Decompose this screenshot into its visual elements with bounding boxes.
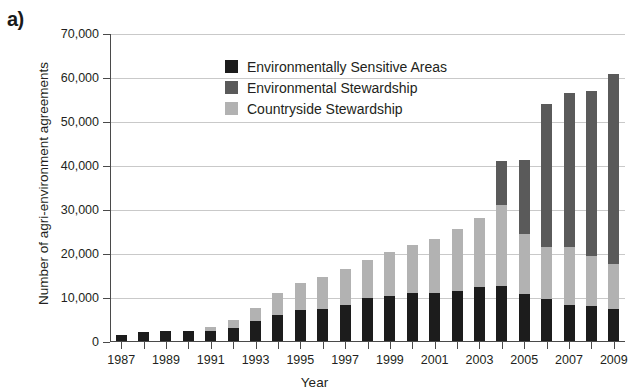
bar-segment <box>384 252 395 296</box>
bar-segment <box>564 305 575 342</box>
bar-segment <box>272 293 283 315</box>
legend-label: Environmentally Sensitive Areas <box>247 59 447 75</box>
bar <box>519 160 530 342</box>
x-axis-tick <box>121 342 122 349</box>
x-axis-tick <box>435 342 436 349</box>
legend-item: Environmental Stewardship <box>225 77 447 98</box>
bar-segment <box>541 247 552 300</box>
x-axis-tick-label: 1995 <box>286 353 314 367</box>
gridline <box>110 34 625 35</box>
bar-segment <box>340 305 351 342</box>
bar-segment <box>317 309 328 342</box>
bar-segment <box>541 104 552 246</box>
bar <box>205 327 216 342</box>
x-axis-tick-label: 1987 <box>107 353 135 367</box>
x-axis-tick <box>614 342 615 349</box>
x-axis-tick-label: 2007 <box>555 353 583 367</box>
x-axis-tick <box>457 342 458 349</box>
bar-segment <box>586 256 597 307</box>
legend-swatch-icon <box>225 60 238 73</box>
bar <box>295 283 306 342</box>
x-axis-tick-label: 2009 <box>600 353 628 367</box>
bar <box>564 93 575 342</box>
bar-segment <box>272 315 283 342</box>
x-axis-tick <box>390 342 391 349</box>
bar-segment <box>250 321 261 342</box>
bar-segment <box>586 91 597 256</box>
bar-segment <box>429 239 440 293</box>
x-axis-tick <box>300 342 301 349</box>
bar <box>272 293 283 342</box>
x-axis-tick-label: 2001 <box>421 353 449 367</box>
bar-segment <box>429 293 440 342</box>
bar-segment <box>407 245 418 293</box>
y-axis-tick-label: 60,000 <box>61 71 99 85</box>
x-axis-tick <box>144 342 145 349</box>
y-axis-tick <box>103 298 110 299</box>
bar-segment <box>250 308 261 322</box>
x-axis-line <box>110 341 625 342</box>
bar <box>384 252 395 342</box>
y-axis-tick-label: 40,000 <box>61 159 99 173</box>
bar-segment <box>228 328 239 342</box>
y-axis-tick-label: 10,000 <box>61 291 99 305</box>
bar-segment <box>496 286 507 342</box>
bar-segment <box>407 293 418 342</box>
x-axis-tick-label: 1997 <box>331 353 359 367</box>
y-axis-tick <box>103 122 110 123</box>
legend-item: Countryside Stewardship <box>225 98 447 119</box>
chart-legend: Environmentally Sensitive AreasEnvironme… <box>225 56 447 119</box>
x-axis-tick <box>547 342 548 349</box>
bar-segment <box>452 291 463 342</box>
bar-segment <box>362 298 373 342</box>
bar <box>496 161 507 342</box>
bar-segment <box>496 205 507 286</box>
y-axis-tick <box>103 166 110 167</box>
y-axis-tick <box>103 78 110 79</box>
x-axis-tick <box>211 342 212 349</box>
x-axis-tick-label: 1989 <box>152 353 180 367</box>
bar <box>608 74 619 342</box>
x-axis-tick <box>345 342 346 349</box>
x-axis-tick-label: 2003 <box>466 353 494 367</box>
y-axis-tick-label: 20,000 <box>61 247 99 261</box>
legend-swatch-icon <box>225 102 238 115</box>
x-axis-tick <box>368 342 369 349</box>
y-axis-tick <box>103 34 110 35</box>
y-axis-tick-label: 0 <box>92 335 99 349</box>
bar-segment <box>474 218 485 287</box>
bar-segment <box>474 287 485 342</box>
x-axis-tick <box>188 342 189 349</box>
x-axis-tick-label: 1991 <box>197 353 225 367</box>
bar-segment <box>608 309 619 342</box>
bar <box>541 104 552 342</box>
bar <box>317 277 328 342</box>
bar-segment <box>340 269 351 305</box>
bar <box>228 320 239 342</box>
bar-segment <box>496 161 507 205</box>
bar-segment <box>541 299 552 342</box>
x-axis-tick-label: 1993 <box>242 353 270 367</box>
bar-segment <box>452 229 463 290</box>
bar-segment <box>384 296 395 342</box>
bar-segment <box>564 93 575 246</box>
legend-label: Countryside Stewardship <box>247 101 403 117</box>
y-axis-tick-label: 70,000 <box>61 27 99 41</box>
y-axis-tick-label: 50,000 <box>61 115 99 129</box>
x-axis-tick <box>412 342 413 349</box>
x-axis-tick-label: 2005 <box>510 353 538 367</box>
x-axis-tick <box>256 342 257 349</box>
bar <box>586 91 597 342</box>
bar-segment <box>295 310 306 342</box>
x-axis-tick <box>479 342 480 349</box>
x-axis-tick <box>591 342 592 349</box>
bar-segment <box>519 294 530 342</box>
bar <box>429 239 440 342</box>
bar-segment <box>205 327 216 330</box>
x-axis-tick <box>502 342 503 349</box>
bar <box>407 245 418 342</box>
bar <box>362 260 373 342</box>
bar <box>474 218 485 342</box>
legend-swatch-icon <box>225 81 238 94</box>
x-axis-tick <box>524 342 525 349</box>
